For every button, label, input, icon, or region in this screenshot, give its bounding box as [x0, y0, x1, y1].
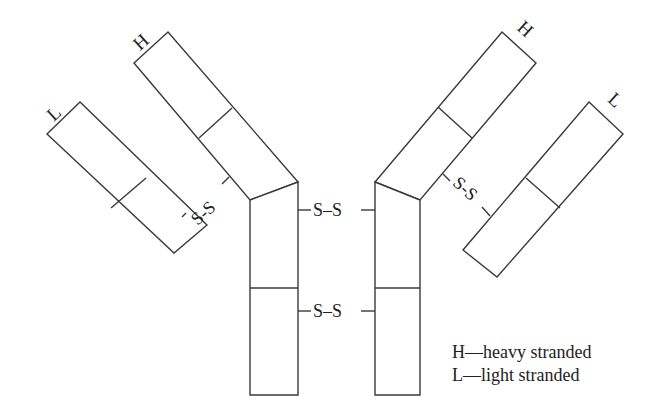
- right-heavy-chain-arm: [375, 32, 536, 200]
- left-light-outline: [47, 102, 207, 253]
- legend: H—heavy stranded L—light stranded: [452, 341, 591, 387]
- right-ss-bond: S-S: [443, 172, 490, 216]
- legend-item-heavy: H—heavy stranded: [452, 341, 591, 364]
- left-light-chain: [47, 102, 207, 253]
- hinge-upper-ss-bond: S–S: [298, 200, 375, 220]
- legend-item-light: L—light stranded: [452, 364, 591, 387]
- right-heavy-arm-outline: [375, 32, 536, 200]
- right-ss-label: S-S: [449, 172, 482, 204]
- hinge-lower-ss-bond: S–S: [298, 301, 375, 321]
- right-light-chain: [463, 102, 623, 277]
- hinge-upper-ss-label: S–S: [313, 200, 342, 220]
- right-heavy-label: H: [513, 16, 537, 41]
- right-light-label: L: [604, 88, 627, 111]
- left-stem: [250, 182, 298, 395]
- right-light-outline: [463, 102, 623, 277]
- left-heavy-arm-outline: [134, 32, 298, 200]
- hinge-lower-ss-label: S–S: [313, 301, 342, 321]
- left-heavy-chain-arm: [134, 32, 298, 200]
- right-stem: [375, 182, 420, 395]
